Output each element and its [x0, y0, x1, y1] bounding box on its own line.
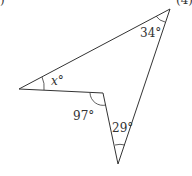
geometry-diagram: ) (4) 34° x° 97° 29°	[0, 0, 192, 176]
angle-label-97: 97°	[73, 110, 94, 122]
corner-text-left: )	[0, 0, 5, 6]
angle-label-top: 34°	[140, 27, 161, 39]
angle-label-x: x°	[51, 75, 64, 87]
angle-arc-top	[156, 16, 165, 22]
arrowhead-figure	[0, 0, 192, 176]
angle-arc-left	[42, 77, 44, 90]
corner-text-right: (4)	[176, 0, 192, 6]
angle-arc-bottom	[115, 144, 125, 145]
angle-label-29: 29°	[112, 122, 133, 134]
